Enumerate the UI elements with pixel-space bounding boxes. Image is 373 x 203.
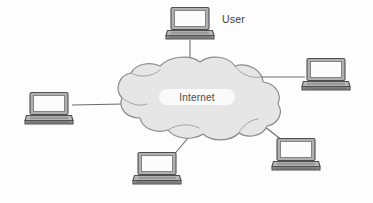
user-label: User [222,13,245,25]
laptop-left[interactable] [25,93,73,125]
internet-label-container: Internet [160,90,234,105]
internet-label: Internet [179,92,215,103]
laptop-top[interactable] [166,8,214,40]
link-left [72,104,124,105]
laptop-bottom[interactable] [133,153,181,185]
diagram-canvas: Internet User [0,0,373,203]
laptop-right-bottom[interactable] [272,139,320,171]
laptop-right-top[interactable] [302,59,350,91]
